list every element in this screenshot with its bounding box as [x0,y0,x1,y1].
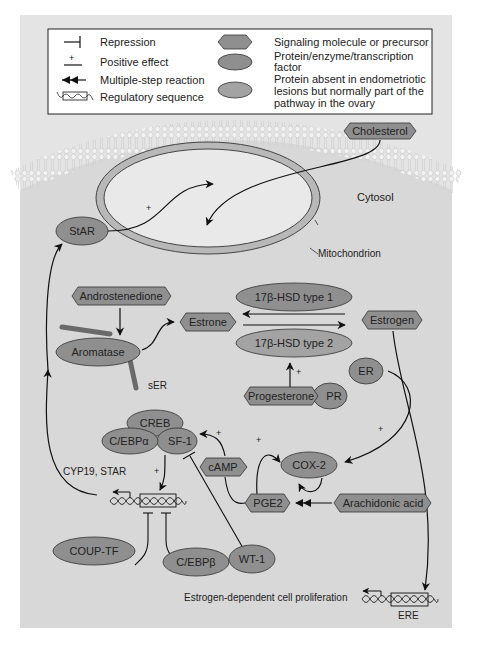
legend-label-absent-3: pathway in the ovary [274,97,375,109]
svg-text:PR: PR [326,390,341,402]
node-sf1: SF-1 [157,428,197,454]
svg-text:+: + [216,428,221,438]
legend-label-multistep: Multiple-step reaction [100,74,205,86]
svg-text:+: + [296,367,301,377]
legend: Repression + Positive effect Multiple-st… [48,29,432,114]
node-coup-tf: COUP-TF [53,537,135,565]
legend-ellipse-dark-icon [218,54,252,70]
endometriosis-estrogen-pathway-diagram: Repression + Positive effect Multiple-st… [0,0,478,645]
svg-text:Progesterone: Progesterone [248,390,314,402]
svg-text:Cholesterol: Cholesterol [352,125,408,137]
node-er: ER [349,358,383,384]
svg-text:+: + [146,203,151,213]
legend-label-protein-2: factor [274,61,302,73]
legend-ellipse-light-icon [218,82,252,98]
node-cebpb: C/EBPβ [163,548,229,576]
label-ser: sER [148,380,167,391]
svg-text:+: + [154,466,159,476]
svg-text:+: + [378,424,383,434]
svg-text:C/EBPβ: C/EBPβ [176,556,215,568]
svg-text:COX-2: COX-2 [292,459,326,471]
svg-text:Androstenedione: Androstenedione [79,290,162,302]
node-star: StAR [56,217,108,245]
svg-text:17β-HSD type 2: 17β-HSD type 2 [255,337,333,349]
label-proliferation: Estrogen-dependent cell proliferation [184,592,347,603]
label-cyp19-star: CYP19, STAR [63,466,126,477]
legend-label-absent-1: Protein absent in endometriotic [274,73,426,85]
svg-text:Arachidonic acid: Arachidonic acid [343,497,424,509]
svg-text:CREB: CREB [140,417,171,429]
node-aromatase: Aromatase [56,338,140,366]
svg-text:PGE2: PGE2 [253,497,282,509]
node-androstenedione: Androstenedione [72,287,171,305]
svg-text:Aromatase: Aromatase [71,346,124,358]
svg-text:WT-1: WT-1 [239,553,265,565]
node-wt1: WT-1 [229,545,275,573]
node-17b-hsd-type-1: 17β-HSD type 1 [236,283,352,311]
node-17b-hsd-type-2: 17β-HSD type 2 [236,329,352,357]
svg-text:C/EBPα: C/EBPα [109,435,149,447]
legend-label-repression: Repression [100,36,156,48]
label-mitochondrion: Mitochondrion [318,248,381,259]
svg-text:Estrogen: Estrogen [370,314,414,326]
label-ere: ERE [398,610,419,621]
node-estrone: Estrone [180,313,236,331]
svg-text:cAMP: cAMP [208,461,237,473]
node-estrogen: Estrogen [362,311,422,329]
node-pge2: PGE2 [245,494,290,512]
svg-text:COUP-TF: COUP-TF [70,545,119,557]
svg-text:17β-HSD type 1: 17β-HSD type 1 [255,291,333,303]
legend-label-absent-2: lesions but normally part of the [274,85,424,97]
svg-text:SF-1: SF-1 [168,435,192,447]
label-cytosol: Cytosol [357,191,394,203]
node-cebpa: C/EBPα [102,428,158,454]
node-cox2: COX-2 [281,452,337,478]
svg-text:Estrone: Estrone [189,316,227,328]
svg-text:ER: ER [358,365,373,377]
mitochondrion [96,142,320,254]
svg-text:+: + [256,435,261,445]
node-arachidonic-acid: Arachidonic acid [334,494,431,512]
node-camp: cAMP [200,458,247,476]
node-progesterone: Progesterone [244,387,318,405]
svg-text:+: + [69,53,74,63]
legend-hexagon-icon [218,35,252,49]
node-cholesterol: Cholesterol [344,123,416,139]
legend-label-regulatory: Regulatory sequence [100,91,204,103]
legend-label-positive: Positive effect [100,56,168,68]
legend-label-signaling: Signaling molecule or precursor [274,36,429,48]
svg-text:StAR: StAR [69,225,95,237]
